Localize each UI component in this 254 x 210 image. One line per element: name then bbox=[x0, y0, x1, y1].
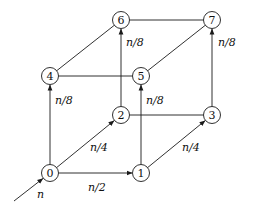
node-label: 0 bbox=[47, 167, 54, 180]
edge-label-0-4: n/8 bbox=[55, 94, 73, 107]
node-2: 2 bbox=[113, 107, 130, 124]
node-label: 2 bbox=[118, 109, 125, 122]
cube-flow-diagram: 01234567 n/2n/4n/8n/4n/8n/8n/8n bbox=[0, 0, 254, 210]
node-label: 5 bbox=[138, 70, 145, 83]
node-label: 3 bbox=[209, 109, 216, 122]
node-label: 6 bbox=[118, 14, 125, 27]
edge-label-3-7: n/8 bbox=[218, 36, 236, 49]
input-edge-label: n bbox=[37, 188, 44, 201]
edge-5-7 bbox=[148, 25, 206, 70]
node-0: 0 bbox=[42, 165, 59, 182]
node-label: 7 bbox=[209, 14, 216, 27]
node-label: 4 bbox=[47, 70, 54, 83]
node-1: 1 bbox=[133, 165, 150, 182]
edge-label-0-2: n/4 bbox=[90, 141, 108, 154]
node-3: 3 bbox=[204, 107, 221, 124]
edge-label-0-1: n/2 bbox=[88, 181, 106, 194]
node-7: 7 bbox=[204, 12, 221, 29]
edge-label-1-3: n/4 bbox=[182, 141, 200, 154]
edge-4-6 bbox=[57, 25, 115, 70]
node-5: 5 bbox=[133, 68, 150, 85]
edge-label-2-6: n/8 bbox=[126, 36, 144, 49]
node-6: 6 bbox=[113, 12, 130, 29]
node-label: 1 bbox=[138, 167, 145, 180]
edge-label-1-5: n/8 bbox=[146, 94, 164, 107]
node-4: 4 bbox=[42, 68, 59, 85]
